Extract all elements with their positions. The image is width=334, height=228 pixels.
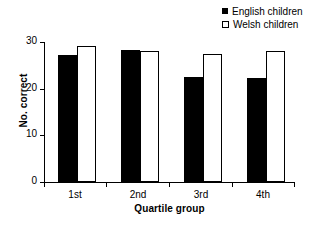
legend-label-welsh-children: Welsh children <box>233 19 298 30</box>
y-tick-label-30: 30 <box>26 35 37 47</box>
x-tick-boundary-2 <box>169 182 170 187</box>
bar-english-1st <box>58 55 77 182</box>
x-axis-title: Quartile group <box>44 203 295 214</box>
x-tick-boundary-1 <box>106 182 107 187</box>
x-tick-boundary-4 <box>294 182 295 187</box>
bar-english-3rd <box>184 77 203 182</box>
y-tick-10: 10 <box>40 135 44 136</box>
bar-welsh-3rd <box>203 54 222 182</box>
y-axis-line <box>44 42 45 182</box>
bar-welsh-1st <box>77 46 96 182</box>
x-tick-label-1st: 1st <box>68 189 81 201</box>
legend-item-welsh-children: Welsh children <box>222 18 303 30</box>
y-tick-label-10: 10 <box>26 128 37 140</box>
x-tick-boundary-0 <box>44 182 45 187</box>
bar-welsh-2nd <box>140 51 159 182</box>
y-tick-label-0: 0 <box>31 175 37 187</box>
x-tick-label-2nd: 2nd <box>130 189 147 201</box>
x-tick-label-3rd: 3rd <box>194 189 208 201</box>
y-tick-30: 30 <box>40 42 44 43</box>
plot-area: 0 10 20 30 1st 2nd 3rd 4th <box>44 42 295 182</box>
y-tick-20: 20 <box>40 89 44 90</box>
x-tick-label-4th: 4th <box>256 189 270 201</box>
bar-welsh-4th <box>266 51 285 182</box>
bar-chart: English children Welsh children No. corr… <box>0 0 334 228</box>
legend-item-english-children: English children <box>222 5 303 17</box>
legend-label-english-children: English children <box>232 6 303 17</box>
legend-swatch-filled-square-icon <box>222 8 228 14</box>
y-tick-label-20: 20 <box>26 82 37 94</box>
bar-english-4th <box>247 78 266 182</box>
legend-swatch-open-square-icon <box>222 21 229 28</box>
x-tick-boundary-3 <box>232 182 233 187</box>
bar-english-2nd <box>121 50 140 183</box>
chart-legend: English children Welsh children <box>222 5 303 30</box>
